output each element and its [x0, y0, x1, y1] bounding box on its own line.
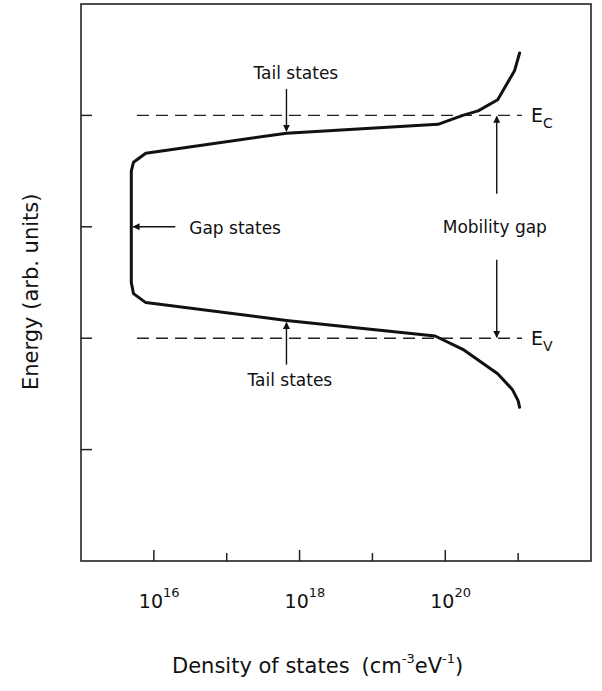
x-tick-label: 1016 — [139, 585, 180, 612]
tail-states-upper-label: Tail states — [252, 63, 338, 83]
dos-chart: 101610181020 ECEV Tail statesTail states… — [0, 0, 602, 691]
reference-label-ev: EV — [531, 327, 553, 354]
x-axis-label: Density of states(cm-3eV-1) — [172, 651, 463, 678]
plot-frame — [81, 4, 591, 561]
x-tick-label: 1018 — [285, 585, 326, 612]
x-tick-label: 1020 — [430, 585, 471, 612]
mobility-gap-label: Mobility gap — [443, 217, 547, 237]
tail-states-lower-label: Tail states — [246, 370, 332, 390]
y-axis-label: Energy (arb. units) — [19, 194, 43, 390]
gap-states-label: Gap states — [189, 218, 281, 238]
reference-label-ec: EC — [531, 104, 553, 131]
